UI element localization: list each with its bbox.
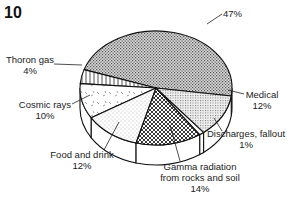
slice-label: 47% — [223, 8, 243, 19]
side-wall-discharges-fallout — [200, 132, 204, 154]
slice-label: Food and drink12% — [50, 149, 114, 171]
slice-label-line: 10% — [35, 110, 55, 121]
pie-chart: 10 47%Thoron gas4%Cosmic rays10%Food and… — [0, 0, 297, 203]
leader-line — [54, 64, 82, 65]
slice-label-line: 47% — [223, 8, 243, 19]
slice-label-line: 1% — [239, 139, 253, 150]
leader-line — [207, 14, 222, 24]
slice-label-line: Gamma radiation — [164, 161, 237, 172]
slice-label-line: 14% — [190, 183, 210, 194]
slice-label-line: Cosmic rays — [19, 99, 72, 110]
slice-label-line: 12% — [72, 160, 92, 171]
slice-label: Gamma radiationfrom rocks and soil14% — [160, 161, 240, 194]
slice-label-line: Thoron gas — [6, 54, 54, 65]
slice-label-line: 4% — [23, 65, 37, 76]
slice-label-line: Food and drink — [50, 149, 114, 160]
slice-label: Cosmic rays10% — [19, 99, 72, 121]
slice-label-line: Discharges, fallout — [207, 128, 286, 139]
figure-number: 10 — [4, 4, 22, 21]
slice-label: Thoron gas4% — [6, 54, 54, 76]
slice-label-line: 12% — [252, 100, 272, 111]
slice-label: Medical12% — [246, 89, 279, 111]
slice-label-line: Medical — [246, 89, 279, 100]
slice-label-line: from rocks and soil — [160, 172, 240, 183]
